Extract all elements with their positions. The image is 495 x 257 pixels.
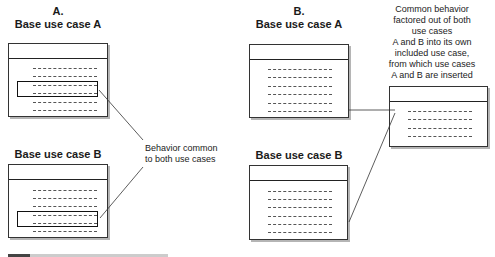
figure-caption	[8, 251, 168, 257]
connector-lines	[0, 0, 495, 257]
